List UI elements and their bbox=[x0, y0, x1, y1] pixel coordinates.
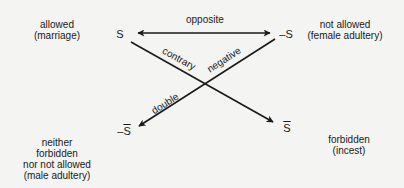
label-not-allowed-line1: not allowed bbox=[307, 19, 382, 30]
node-not-s-bar: –S bbox=[117, 125, 130, 137]
label-neither: neither forbidden nor not allowed (male … bbox=[23, 137, 91, 181]
label-neither-line1: neither bbox=[23, 137, 91, 148]
node-s-bar-symbol: S bbox=[283, 122, 290, 134]
node-s: S bbox=[116, 28, 123, 40]
label-allowed-line2: (marriage) bbox=[34, 30, 80, 41]
label-neither-line2: forbidden bbox=[23, 148, 91, 159]
label-not-allowed-line2: (female adultery) bbox=[307, 30, 382, 41]
label-allowed-line1: allowed bbox=[34, 19, 80, 30]
label-allowed: allowed (marriage) bbox=[34, 19, 80, 41]
label-forbidden: forbidden (incest) bbox=[328, 134, 370, 156]
label-forbidden-line2: (incest) bbox=[328, 145, 370, 156]
node-not-s-bar-symbol: S bbox=[123, 125, 130, 137]
label-neither-line4: (male adultery) bbox=[23, 170, 91, 181]
edge-label-opposite: opposite bbox=[186, 14, 224, 25]
label-not-allowed: not allowed (female adultery) bbox=[307, 19, 382, 41]
label-forbidden-line1: forbidden bbox=[328, 134, 370, 145]
semiotic-square-diagram: S –S S –S allowed (marriage) not allowed… bbox=[0, 0, 404, 188]
label-neither-line3: nor not allowed bbox=[23, 159, 91, 170]
node-s-bar: S bbox=[283, 122, 290, 134]
node-not-s: –S bbox=[279, 28, 292, 40]
